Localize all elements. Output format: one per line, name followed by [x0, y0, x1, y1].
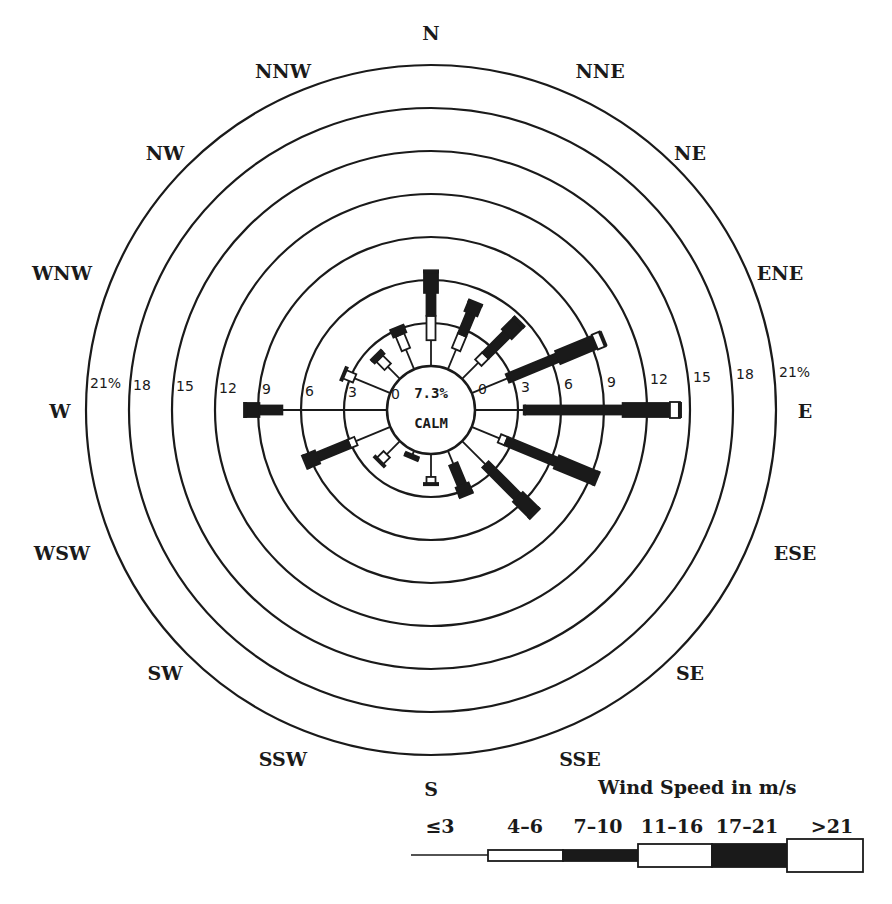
- segment-2: [259, 406, 282, 415]
- ring-label-left: 15: [176, 378, 194, 394]
- segment-le3: [462, 363, 478, 379]
- segment-4: [245, 403, 259, 417]
- legend-category: 7–10: [573, 815, 622, 837]
- segment-4: [623, 403, 670, 417]
- legend-swatch-11-16: [638, 844, 712, 867]
- segment-le3: [406, 349, 414, 369]
- bar-w: [243, 402, 387, 418]
- bar-end-cap: [243, 402, 247, 418]
- segment-4: [554, 455, 599, 484]
- segment-2: [482, 461, 521, 500]
- direction-label-nw: NW: [146, 142, 185, 164]
- legend-swatch-7-10: [563, 850, 638, 861]
- legend-title: Wind Speed in m/s: [597, 776, 796, 798]
- direction-label-nne: NNE: [575, 60, 624, 82]
- legend-category: ≤3: [425, 815, 454, 837]
- ring-label-left: 9: [262, 381, 271, 397]
- bar-ene: [469, 331, 608, 401]
- segment-le3: [387, 441, 400, 454]
- segment-le3: [388, 367, 400, 379]
- direction-label-se: SE: [676, 662, 704, 684]
- ring-label-right: 12: [650, 371, 668, 387]
- bar-s: [423, 454, 439, 486]
- legend-swatch-gt21: [787, 839, 863, 872]
- segment-le3: [462, 441, 485, 464]
- bar-end-cap: [423, 269, 439, 273]
- segment-2: [316, 440, 351, 461]
- segment-le3: [472, 378, 508, 393]
- legend-category: 11–16: [641, 815, 703, 837]
- direction-label-s: S: [424, 778, 438, 800]
- legend-swatch-17-21: [712, 844, 787, 867]
- direction-label-w: W: [48, 400, 71, 422]
- direction-label-ese: ESE: [774, 542, 817, 564]
- ring-label-right: 3: [521, 379, 530, 395]
- direction-label-n: N: [422, 22, 439, 44]
- direction-label-nnw: NNW: [255, 60, 312, 82]
- segment-4: [424, 271, 438, 293]
- ring-label-right: 15: [693, 369, 711, 385]
- segment-le3: [355, 378, 391, 393]
- bar-n: [423, 269, 439, 366]
- segment-2: [427, 293, 436, 316]
- segment-le3: [356, 427, 390, 441]
- direction-label-wsw: WSW: [33, 542, 91, 564]
- ring-label-left: 18: [133, 377, 151, 393]
- legend-category: 4–6: [507, 815, 543, 837]
- bar-end-cap: [678, 402, 682, 418]
- legend-category: 17–21: [716, 815, 778, 837]
- segment-le3: [448, 349, 456, 369]
- bar-end-cap: [423, 482, 439, 486]
- ring-label-left: 21%: [90, 375, 121, 391]
- wind-rose-chart: 7.3% CALM 21%1815129630036912151821% NNN…: [0, 0, 892, 904]
- ring-label-right: 0: [478, 381, 487, 397]
- legend-swatch-4-6: [488, 850, 563, 861]
- legend: Wind Speed in m/s ≤34–67–1011–1617–21>21: [411, 776, 863, 872]
- ring-label-left: 3: [348, 384, 357, 400]
- segment-le3: [448, 451, 453, 464]
- legend-category: >21: [811, 815, 853, 837]
- calm-circle: 7.3% CALM: [387, 366, 475, 454]
- ring-label-left: 12: [219, 380, 237, 396]
- segment-2: [507, 353, 559, 382]
- segment-1: [427, 316, 436, 340]
- direction-label-sw: SW: [147, 662, 183, 684]
- ring-label-right: 21%: [779, 364, 810, 380]
- direction-label-ene: ENE: [757, 262, 803, 284]
- direction-label-e: E: [798, 400, 812, 422]
- bar-sse: [440, 448, 474, 500]
- segment-2: [482, 331, 510, 359]
- ring-label-right: 18: [736, 366, 754, 382]
- bar-e: [475, 402, 682, 418]
- segment-2: [504, 437, 558, 466]
- ring-label-right: 9: [607, 374, 616, 390]
- direction-label-sse: SSE: [559, 748, 601, 770]
- ring-label-left: 0: [391, 386, 400, 402]
- segment-le3: [472, 427, 500, 439]
- calm-label: CALM: [414, 415, 448, 431]
- ring-label-right: 6: [564, 376, 573, 392]
- calm-value: 7.3%: [414, 385, 448, 401]
- bar-nnw: [389, 323, 422, 372]
- ring-label-left: 6: [305, 383, 314, 399]
- direction-label-ssw: SSW: [259, 748, 308, 770]
- direction-label-wnw: WNW: [31, 262, 93, 284]
- segment-2: [449, 462, 466, 487]
- segment-2: [525, 406, 622, 415]
- direction-label-ne: NE: [674, 142, 706, 164]
- segment-4: [555, 336, 597, 364]
